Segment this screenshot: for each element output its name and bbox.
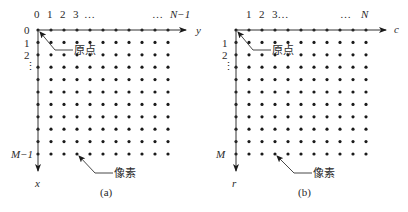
pixel-dot bbox=[101, 66, 104, 69]
pixel-dot bbox=[88, 140, 91, 143]
panel-a-col-ellipsis-left: … bbox=[84, 8, 95, 20]
pixel-dot bbox=[286, 152, 289, 155]
pixel-dot bbox=[286, 128, 289, 131]
pixel-dot bbox=[114, 103, 117, 106]
panel-a-pixel-callout: 像素 bbox=[114, 167, 136, 180]
pixel-dot bbox=[166, 103, 169, 106]
pixel-dot bbox=[140, 90, 143, 93]
pixel-dot bbox=[101, 103, 104, 106]
pixel-dot bbox=[127, 41, 130, 44]
pixel-dot bbox=[166, 128, 169, 131]
pixel-dot bbox=[351, 128, 354, 131]
pixel-dot bbox=[286, 115, 289, 118]
pixel-dot bbox=[62, 103, 65, 106]
pixel-dot bbox=[273, 90, 276, 93]
pixel-dot bbox=[101, 152, 104, 155]
panel-b-col-label-1: 1 bbox=[246, 8, 252, 20]
pixel-dot bbox=[260, 90, 263, 93]
pixel-dot bbox=[153, 140, 156, 143]
panel-b-pixel-callout: 像素 bbox=[313, 167, 335, 180]
panel-a-v-axis-label: x bbox=[34, 177, 40, 189]
pixel-dot bbox=[140, 41, 143, 44]
panel-a-caption: (a) bbox=[100, 186, 113, 199]
pixel-dot bbox=[260, 53, 263, 56]
pixel-dot bbox=[247, 66, 250, 69]
pixel-dot bbox=[325, 115, 328, 118]
panel-a-row-label-0: 0 bbox=[24, 24, 30, 36]
pixel-dot bbox=[286, 140, 289, 143]
pixel-dot bbox=[62, 140, 65, 143]
pixel-dot bbox=[260, 103, 263, 106]
pixel-dot bbox=[286, 103, 289, 106]
pixel-dot bbox=[325, 140, 328, 143]
pixel-dot bbox=[260, 140, 263, 143]
coordinate-grid-figure: 0 1 2 3 … … N−1 y 0 1 2 ⋮ M−1 x 原点 像素 (a… bbox=[0, 0, 408, 212]
pixel-dot bbox=[88, 66, 91, 69]
pixel-dot bbox=[101, 128, 104, 131]
pixel-dot bbox=[247, 78, 250, 81]
pixel-dot bbox=[351, 90, 354, 93]
panel-b: 1 2 3… … N c 1 2 ⋮ M r 原点 像素 (b) bbox=[215, 8, 399, 199]
pixel-dot bbox=[153, 53, 156, 56]
pixel-dot bbox=[75, 90, 78, 93]
pixel-dot bbox=[140, 103, 143, 106]
pixel-dot bbox=[101, 140, 104, 143]
panel-a-pixel-pointer bbox=[79, 156, 113, 173]
panel-a-h-axis-label: y bbox=[195, 24, 201, 36]
pixel-dot bbox=[75, 115, 78, 118]
panel-b-v-axis-label: r bbox=[232, 177, 237, 189]
pixel-dot bbox=[338, 41, 341, 44]
pixel-dot bbox=[114, 78, 117, 81]
pixel-dot bbox=[49, 78, 52, 81]
pixel-dot bbox=[140, 128, 143, 131]
pixel-dot bbox=[338, 152, 341, 155]
pixel-dot bbox=[325, 152, 328, 155]
pixel-dot bbox=[312, 66, 315, 69]
pixel-dot bbox=[260, 66, 263, 69]
pixel-dot bbox=[338, 78, 341, 81]
pixel-dot bbox=[114, 53, 117, 56]
pixel-dot bbox=[273, 140, 276, 143]
panel-b-row-label-last: M bbox=[215, 148, 226, 160]
pixel-dot bbox=[127, 128, 130, 131]
pixel-dot bbox=[153, 152, 156, 155]
pixel-dot bbox=[101, 115, 104, 118]
pixel-dot bbox=[153, 66, 156, 69]
pixel-dot bbox=[114, 152, 117, 155]
pixel-dot bbox=[299, 53, 302, 56]
pixel-dot bbox=[312, 128, 315, 131]
pixel-dot bbox=[247, 90, 250, 93]
pixel-dot bbox=[338, 140, 341, 143]
pixel-dot bbox=[114, 128, 117, 131]
pixel-dot bbox=[247, 115, 250, 118]
pixel-dot bbox=[273, 103, 276, 106]
pixel-dot bbox=[260, 152, 263, 155]
pixel-dot bbox=[127, 66, 130, 69]
pixel-dot bbox=[299, 90, 302, 93]
pixel-dot bbox=[325, 128, 328, 131]
pixel-dot bbox=[101, 78, 104, 81]
pixel-dot bbox=[101, 90, 104, 93]
pixel-dot bbox=[364, 152, 367, 155]
pixel-dot bbox=[299, 115, 302, 118]
panel-b-h-axis-label: c bbox=[394, 23, 399, 35]
pixel-dot bbox=[312, 152, 315, 155]
pixel-dot bbox=[247, 103, 250, 106]
pixel-dot bbox=[49, 90, 52, 93]
panel-b-row-label-1: 1 bbox=[222, 37, 228, 49]
pixel-dot bbox=[325, 66, 328, 69]
pixel-dot bbox=[140, 152, 143, 155]
pixel-dot bbox=[49, 128, 52, 131]
pixel-dot bbox=[140, 53, 143, 56]
pixel-dot bbox=[166, 41, 169, 44]
pixel-dot bbox=[351, 140, 354, 143]
pixel-dot bbox=[88, 103, 91, 106]
pixel-dot bbox=[312, 115, 315, 118]
panel-a-col-label-0: 0 bbox=[34, 8, 40, 20]
pixel-dot bbox=[364, 90, 367, 93]
panel-a: 0 1 2 3 … … N−1 y 0 1 2 ⋮ M−1 x 原点 像素 (a… bbox=[10, 8, 201, 199]
pixel-dot bbox=[49, 103, 52, 106]
pixel-dot bbox=[166, 90, 169, 93]
pixel-dot bbox=[351, 53, 354, 56]
pixel-dot bbox=[351, 103, 354, 106]
